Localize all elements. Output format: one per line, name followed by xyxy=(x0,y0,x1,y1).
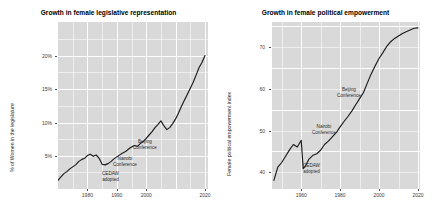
x-tick-label-right-3: 2020 xyxy=(412,192,423,198)
x-tick-label-right-1: 1980 xyxy=(335,192,346,198)
x-tick-label-left-0: 1980 xyxy=(82,192,93,198)
x-tick-label-right-2: 2000 xyxy=(374,192,385,198)
annotation-beijing-right: Beijing Conference xyxy=(337,87,361,99)
annotation-beijing-left: Beijing Conference xyxy=(133,139,157,151)
y-tickmark-right-1 xyxy=(269,131,271,132)
x-tick-label-left-2: 2000 xyxy=(141,192,152,198)
x-tickmark-left-2 xyxy=(146,189,147,191)
annotation-nairobi-left: Nairobi Conference xyxy=(113,156,137,168)
y-tickmark-right-3 xyxy=(269,47,271,48)
y-tick-label-right-2: 60 xyxy=(249,86,265,92)
y-tickmark-left-1 xyxy=(55,123,57,124)
chart-title-right: Growth in female political empowerment xyxy=(217,9,434,16)
x-tickmark-right-2 xyxy=(379,189,380,191)
x-tickmark-right-3 xyxy=(418,189,419,191)
annotation-nairobi-right: Nairobi Conference xyxy=(312,124,336,136)
x-tickmark-left-3 xyxy=(205,189,206,191)
annotation-cedaw-right: CEDAW adopted xyxy=(303,163,320,175)
y-tickmark-left-2 xyxy=(55,89,57,90)
y-tick-label-right-3: 70 xyxy=(249,44,265,50)
annotation-cedaw-left: CEDAW adopted xyxy=(102,171,119,183)
y-tick-label-left-0: 5% xyxy=(34,153,52,159)
x-tickmark-left-0 xyxy=(87,189,88,191)
y-tickmark-left-3 xyxy=(55,56,57,57)
y-axis-title-right: Female political empowerment index xyxy=(226,92,232,176)
x-tickmark-right-0 xyxy=(301,189,302,191)
y-tick-label-right-0: 40 xyxy=(249,169,265,175)
x-tick-label-left-1: 1990 xyxy=(111,192,122,198)
y-tick-label-left-3: 20% xyxy=(34,53,52,59)
y-tickmark-right-0 xyxy=(269,172,271,173)
chart-panel-political-empowerment: Growth in female political empowerment F… xyxy=(217,0,434,220)
chart-title-left: Growth in female legislative representat… xyxy=(0,9,217,16)
y-tickmark-right-2 xyxy=(269,89,271,90)
x-tick-label-left-3: 2020 xyxy=(199,192,210,198)
x-tickmark-left-1 xyxy=(117,189,118,191)
x-tickmark-right-1 xyxy=(340,189,341,191)
chart-panel-legislative-representation: Growth in female legislative representat… xyxy=(0,0,217,220)
plot-area-right xyxy=(272,22,420,189)
y-tick-label-right-1: 50 xyxy=(249,128,265,134)
y-axis-title-left: % of Women in the legislature xyxy=(9,103,15,172)
y-tick-label-left-2: 15% xyxy=(34,86,52,92)
figure-container: Growth in female legislative representat… xyxy=(0,0,434,220)
y-tickmark-left-0 xyxy=(55,156,57,157)
y-tick-label-left-1: 10% xyxy=(34,120,52,126)
series-line-right xyxy=(272,22,420,189)
x-tick-label-right-0: 1960 xyxy=(296,192,307,198)
